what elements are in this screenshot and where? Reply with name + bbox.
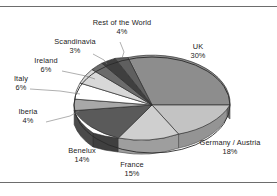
label-benelux-pct: 14% bbox=[58, 155, 106, 164]
label-rest-of-the-world-pct: 4% bbox=[78, 27, 166, 36]
label-rest-of-the-world-name: Rest of the World bbox=[93, 18, 152, 27]
label-france-name: France bbox=[120, 160, 144, 169]
label-benelux-name: Benelux bbox=[68, 146, 95, 155]
label-uk-name: UK bbox=[193, 42, 203, 51]
label-ireland-name: Ireland bbox=[34, 56, 57, 65]
label-scandinavia-pct: 3% bbox=[41, 46, 109, 55]
label-scandinavia: Scandinavia 3% bbox=[41, 37, 109, 55]
label-germany-austria-pct: 18% bbox=[186, 147, 274, 156]
label-ireland: Ireland 6% bbox=[22, 56, 70, 74]
label-iberia-name: Iberia bbox=[18, 107, 37, 116]
label-france: France 15% bbox=[108, 160, 156, 178]
label-germany-austria: Germany / Austria 18% bbox=[186, 138, 274, 156]
label-italy-pct: 6% bbox=[4, 83, 38, 92]
leader-rest-of-the-world bbox=[120, 42, 124, 58]
label-scandinavia-name: Scandinavia bbox=[54, 37, 95, 46]
label-uk: UK 30% bbox=[178, 42, 218, 60]
label-france-pct: 15% bbox=[108, 169, 156, 178]
label-italy-name: Italy bbox=[14, 74, 28, 83]
pie-chart-figure: Rest of the World 4% Scandinavia 3% Irel… bbox=[0, 0, 277, 196]
label-ireland-pct: 6% bbox=[22, 65, 70, 74]
label-iberia-pct: 4% bbox=[8, 116, 48, 125]
label-uk-pct: 30% bbox=[178, 51, 218, 60]
label-rest-of-the-world: Rest of the World 4% bbox=[78, 18, 166, 36]
label-benelux: Benelux 14% bbox=[58, 146, 106, 164]
label-germany-austria-name: Germany / Austria bbox=[200, 138, 261, 147]
label-iberia: Iberia 4% bbox=[8, 107, 48, 125]
label-italy: Italy 6% bbox=[4, 74, 38, 92]
